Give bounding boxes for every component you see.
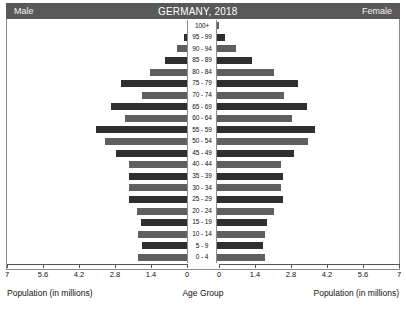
female-bar-cell (217, 217, 397, 229)
age-group-cell: 25 - 29 (187, 194, 217, 206)
axis-tick-female (363, 264, 364, 268)
male-bar (137, 208, 187, 215)
pyramid-row: 10 - 14 (7, 228, 399, 240)
male-bar-cell (7, 205, 187, 217)
female-bar-cell (217, 124, 397, 136)
female-bar-cell (217, 78, 397, 90)
age-group-cell: 5 - 9 (187, 240, 217, 252)
age-group-cell: 35 - 39 (187, 171, 217, 183)
axis-tick-label-female: 7 (397, 270, 401, 279)
age-group-label: 85 - 89 (192, 57, 212, 64)
male-bar-cell (7, 252, 187, 264)
pyramid-row: 55 - 59 (7, 124, 399, 136)
pyramid-row: 90 - 94 (7, 43, 399, 55)
female-bar-cell (217, 66, 397, 78)
male-bar (111, 103, 187, 110)
male-bar-cell (7, 159, 187, 171)
axis-tick-male (43, 264, 44, 268)
axis-tick-label-female: 4.2 (322, 270, 332, 279)
male-bar (138, 254, 187, 261)
axis-tick-male (7, 264, 8, 268)
age-group-label: 25 - 29 (192, 196, 212, 203)
male-bar-cell (7, 55, 187, 67)
female-bar (217, 45, 236, 52)
age-group-label: 60 - 64 (192, 115, 212, 122)
pyramid-row: 45 - 49 (7, 147, 399, 159)
male-bar-cell (7, 240, 187, 252)
female-bar-cell (217, 205, 397, 217)
age-group-label: 0 - 4 (196, 254, 209, 261)
pyramid-row: 30 - 34 (7, 182, 399, 194)
axis-tick-female (327, 264, 328, 268)
female-bar-cell (217, 89, 397, 101)
female-bar (217, 34, 225, 41)
female-bar-cell (217, 113, 397, 125)
male-bar-cell (7, 66, 187, 78)
age-group-cell: 75 - 79 (187, 78, 217, 90)
female-bar (217, 196, 283, 203)
age-group-label: 65 - 69 (192, 104, 212, 111)
female-bar (217, 150, 294, 157)
pyramid-row: 85 - 89 (7, 55, 399, 67)
female-bar-cell (217, 182, 397, 194)
female-bar-cell (217, 240, 397, 252)
age-group-cell: 60 - 64 (187, 113, 217, 125)
male-bar-cell (7, 89, 187, 101)
male-bar (116, 150, 187, 157)
male-legend-label: Male (14, 6, 34, 16)
age-group-cell: 20 - 24 (187, 205, 217, 217)
pyramid-row: 100+ (7, 20, 399, 32)
female-bar (217, 173, 283, 180)
age-group-cell: 10 - 14 (187, 228, 217, 240)
male-bar (96, 126, 187, 133)
female-bar-cell (217, 55, 397, 67)
axis-tick-label-male: 7 (5, 270, 9, 279)
age-group-label: 70 - 74 (192, 92, 212, 99)
axis-tick-female (255, 264, 256, 268)
female-bar (217, 126, 315, 133)
age-group-label: 50 - 54 (192, 138, 212, 145)
male-bar-cell (7, 182, 187, 194)
population-pyramid-chart: Male GERMANY, 2018 Female 100+95 - 9990 … (0, 0, 406, 311)
female-bar-cell (217, 136, 397, 148)
female-bar (217, 115, 292, 122)
female-bar (217, 242, 263, 249)
male-bar (150, 69, 187, 76)
age-group-cell: 85 - 89 (187, 55, 217, 67)
axis-tick-female (219, 264, 220, 268)
pyramid-row: 60 - 64 (7, 113, 399, 125)
male-bar (121, 80, 187, 87)
age-group-cell: 65 - 69 (187, 101, 217, 113)
age-group-cell: 90 - 94 (187, 43, 217, 55)
age-group-cell: 0 - 4 (187, 252, 217, 264)
pyramid-row: 75 - 79 (7, 78, 399, 90)
age-group-label: 95 - 99 (192, 34, 212, 41)
male-bar (142, 242, 187, 249)
male-bar (129, 161, 187, 168)
female-bar (217, 208, 274, 215)
male-bar (129, 196, 187, 203)
female-bar (217, 138, 308, 145)
male-bar-cell (7, 228, 187, 240)
female-legend-label: Female (362, 6, 392, 16)
pyramid-row: 70 - 74 (7, 89, 399, 101)
age-group-label: 45 - 49 (192, 150, 212, 157)
male-bar-cell (7, 136, 187, 148)
axis-tick-label-female: 1.4 (250, 270, 260, 279)
male-bar-cell (7, 194, 187, 206)
axis-tick-label-male: 4.2 (74, 270, 84, 279)
age-group-cell: 50 - 54 (187, 136, 217, 148)
axis-tick-female (399, 264, 400, 268)
age-group-cell: 15 - 19 (187, 217, 217, 229)
axis-tick-label-female: 0 (217, 270, 221, 279)
male-bar-cell (7, 124, 187, 136)
age-group-label: 100+ (195, 23, 209, 30)
male-bar-cell (7, 43, 187, 55)
male-bar-cell (7, 78, 187, 90)
age-group-label: 10 - 14 (192, 231, 212, 238)
male-bar (125, 115, 187, 122)
female-bar-cell (217, 228, 397, 240)
age-group-cell: 80 - 84 (187, 66, 217, 78)
age-group-label: 15 - 19 (192, 219, 212, 226)
female-bar-cell (217, 20, 397, 32)
